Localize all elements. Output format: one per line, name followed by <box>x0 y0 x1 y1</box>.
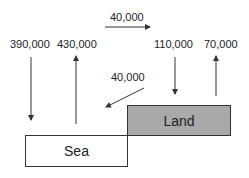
sea-label: Sea <box>64 143 89 159</box>
land-label: Land <box>163 113 194 129</box>
flow-label-40000-top: 40,000 <box>110 12 144 23</box>
flow-label-430000: 430,000 <box>57 39 97 50</box>
flow-label-70000: 70,000 <box>204 39 238 50</box>
land-box: Land <box>127 105 231 136</box>
flow-label-40000-mid: 40,000 <box>111 72 145 83</box>
water-cycle-diagram: 390,000 430,000 40,000 110,000 70,000 40… <box>0 0 249 178</box>
sea-box: Sea <box>25 135 128 167</box>
flow-label-110000: 110,000 <box>154 39 193 50</box>
flow-label-390000: 390,000 <box>10 39 50 50</box>
